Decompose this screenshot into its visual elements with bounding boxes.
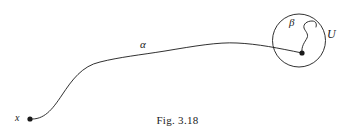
beta-label: β bbox=[289, 17, 294, 28]
endpoint-dot bbox=[299, 50, 304, 55]
beta-path bbox=[302, 21, 317, 53]
figure-container: α β U x Fig. 3.18 bbox=[0, 0, 355, 137]
neighborhood-label: U bbox=[327, 28, 336, 40]
figure-caption: Fig. 3.18 bbox=[0, 114, 355, 126]
alpha-path bbox=[30, 43, 302, 119]
alpha-label: α bbox=[140, 39, 146, 50]
neighborhood-circle bbox=[273, 14, 326, 67]
